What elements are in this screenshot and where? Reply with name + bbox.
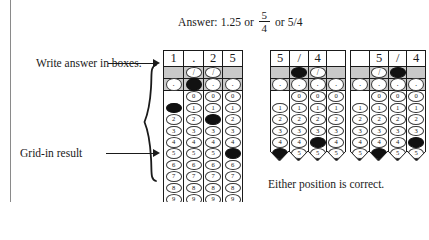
digit-bubble-3[interactable]: 3 — [371, 126, 387, 137]
digit-bubble-2[interactable]: 2 — [272, 114, 288, 125]
digit-bubble-0[interactable]: 0 — [371, 91, 387, 102]
digit-bubble-9[interactable]: 9 — [205, 194, 221, 202]
digit-bubble-4[interactable]: 4 — [371, 137, 387, 148]
digit-bubble-8[interactable]: 8 — [186, 183, 202, 194]
digit-bubble-0[interactable]: 0 — [390, 91, 406, 102]
digit-bubble-0[interactable]: 0 — [291, 91, 307, 102]
answer-box[interactable]: / — [289, 51, 308, 66]
digit-bubble-1[interactable]: 1 — [352, 103, 368, 114]
digit-bubble-2[interactable]: 2 — [225, 114, 241, 125]
slash-bubble[interactable]: / — [390, 67, 406, 78]
digit-bubble-1[interactable]: 1 — [310, 103, 326, 114]
decimal-bubble[interactable]: . — [272, 78, 288, 92]
digit-bubble-6[interactable]: 6 — [186, 160, 202, 171]
digit-bubble-1[interactable]: 1 — [272, 103, 288, 114]
digit-bubble-3[interactable]: 3 — [328, 126, 344, 137]
digit-bubble-4[interactable]: 4 — [186, 137, 202, 148]
digit-bubble-4[interactable]: 4 — [328, 137, 344, 148]
decimal-bubble[interactable]: . — [408, 78, 424, 92]
digit-bubble-0[interactable]: 0 — [328, 91, 344, 102]
decimal-bubble[interactable]: . — [310, 78, 326, 92]
digit-bubble-2[interactable]: 2 — [371, 114, 387, 125]
digit-bubble-6[interactable]: 6 — [205, 160, 221, 171]
digit-bubble-3[interactable]: 3 — [352, 126, 368, 137]
digit-bubble-3[interactable]: 3 — [390, 126, 406, 137]
decimal-bubble[interactable]: . — [205, 78, 221, 92]
digit-bubble-6[interactable]: 6 — [166, 160, 182, 171]
decimal-bubble[interactable]: . — [371, 78, 387, 92]
slash-bubble[interactable]: / — [186, 67, 202, 78]
digit-bubble-5[interactable]: 5 — [225, 148, 241, 159]
digit-bubble-8[interactable]: 8 — [166, 183, 182, 194]
digit-bubble-3[interactable]: 3 — [310, 126, 326, 137]
answer-box[interactable]: 1 — [164, 51, 183, 66]
digit-bubble-2[interactable]: 2 — [352, 114, 368, 125]
answer-box[interactable]: 4 — [308, 51, 327, 66]
digit-bubble-2[interactable]: 2 — [186, 114, 202, 125]
digit-bubble-1[interactable]: 1 — [291, 103, 307, 114]
decimal-bubble[interactable]: . — [328, 78, 344, 92]
answer-box[interactable]: / — [388, 51, 407, 66]
digit-bubble-4[interactable]: 4 — [408, 137, 424, 148]
digit-bubble-7[interactable]: 7 — [186, 171, 202, 182]
digit-bubble-0[interactable]: 0 — [186, 91, 202, 102]
digit-bubble-0[interactable]: 0 — [205, 91, 221, 102]
digit-bubble-2[interactable]: 2 — [205, 114, 221, 125]
digit-bubble-9[interactable]: 9 — [166, 194, 182, 202]
decimal-bubble[interactable]: . — [390, 78, 406, 92]
digit-bubble-4[interactable]: 4 — [390, 137, 406, 148]
digit-bubble-1[interactable]: 1 — [408, 103, 424, 114]
slash-bubble[interactable]: / — [291, 67, 307, 78]
digit-bubble-3[interactable]: 3 — [186, 126, 202, 137]
digit-bubble-4[interactable]: 4 — [291, 137, 307, 148]
digit-bubble-4[interactable]: 4 — [166, 137, 182, 148]
digit-bubble-4[interactable]: 4 — [272, 137, 288, 148]
answer-box[interactable]: 2 — [203, 51, 223, 66]
digit-bubble-1[interactable]: 1 — [205, 103, 221, 114]
digit-bubble-2[interactable]: 2 — [166, 114, 182, 125]
digit-bubble-3[interactable]: 3 — [225, 126, 241, 137]
answer-box[interactable] — [351, 51, 369, 66]
answer-box[interactable]: 5 — [271, 51, 289, 66]
digit-bubble-7[interactable]: 7 — [205, 171, 221, 182]
digit-bubble-3[interactable]: 3 — [166, 126, 182, 137]
digit-bubble-3[interactable]: 3 — [205, 126, 221, 137]
digit-bubble-7[interactable]: 7 — [166, 171, 182, 182]
digit-bubble-1[interactable]: 1 — [328, 103, 344, 114]
decimal-bubble[interactable]: . — [352, 78, 368, 92]
slash-bubble[interactable]: / — [205, 67, 221, 78]
digit-bubble-0[interactable]: 0 — [225, 91, 241, 102]
digit-bubble-2[interactable]: 2 — [310, 114, 326, 125]
digit-bubble-3[interactable]: 3 — [291, 126, 307, 137]
answer-box[interactable]: 5 — [369, 51, 388, 66]
digit-bubble-4[interactable]: 4 — [310, 137, 326, 148]
digit-bubble-8[interactable]: 8 — [225, 183, 241, 194]
digit-bubble-0[interactable]: 0 — [310, 91, 326, 102]
decimal-bubble[interactable]: . — [186, 78, 202, 92]
digit-bubble-5[interactable]: 5 — [205, 148, 221, 159]
answer-box[interactable] — [326, 51, 345, 66]
slash-bubble[interactable]: / — [310, 67, 326, 78]
digit-bubble-1[interactable]: 1 — [371, 103, 387, 114]
digit-bubble-1[interactable]: 1 — [186, 103, 202, 114]
decimal-bubble[interactable]: . — [225, 78, 241, 92]
digit-bubble-1[interactable]: 1 — [225, 103, 241, 114]
digit-bubble-8[interactable]: 8 — [205, 183, 221, 194]
answer-box[interactable]: . — [183, 51, 203, 66]
digit-bubble-3[interactable]: 3 — [272, 126, 288, 137]
digit-bubble-4[interactable]: 4 — [352, 137, 368, 148]
digit-bubble-7[interactable]: 7 — [225, 171, 241, 182]
answer-box[interactable]: 5 — [222, 51, 242, 66]
digit-bubble-1[interactable]: 1 — [390, 103, 406, 114]
digit-bubble-2[interactable]: 2 — [328, 114, 344, 125]
digit-bubble-3[interactable]: 3 — [408, 126, 424, 137]
digit-bubble-4[interactable]: 4 — [205, 137, 221, 148]
digit-bubble-6[interactable]: 6 — [225, 160, 241, 171]
digit-bubble-9[interactable]: 9 — [186, 194, 202, 202]
digit-bubble-5[interactable]: 5 — [186, 148, 202, 159]
digit-bubble-5[interactable]: 5 — [166, 148, 182, 159]
digit-bubble-9[interactable]: 9 — [225, 194, 241, 202]
answer-box[interactable]: 4 — [406, 51, 425, 66]
digit-bubble-0[interactable]: 0 — [408, 91, 424, 102]
digit-bubble-2[interactable]: 2 — [390, 114, 406, 125]
